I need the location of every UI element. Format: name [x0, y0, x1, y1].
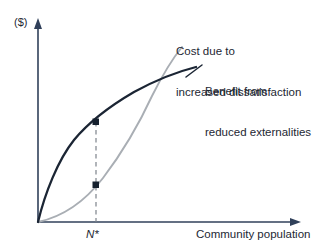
- nstar-tick-label: N*: [86, 228, 99, 242]
- benefit-annotation-line-1: Benefit from: [205, 85, 311, 99]
- benefit-at-nstar-marker: [93, 119, 100, 126]
- x-axis-label: Community population: [196, 228, 310, 242]
- x-axis: [38, 218, 301, 226]
- cost-curve: [38, 47, 182, 222]
- y-axis-label: ($): [14, 16, 27, 29]
- y-axis: [34, 18, 42, 222]
- cost-annotation-line-1: Cost due to: [176, 45, 301, 59]
- benefit-curve: [38, 67, 196, 222]
- benefit-curve-annotation: Benefit from reduced externalities: [205, 58, 311, 167]
- benefit-annotation-line-2: reduced externalities: [205, 126, 311, 140]
- cost-at-nstar-marker: [93, 182, 100, 189]
- chart-figure: ($) Community population N* Cost due to …: [0, 0, 322, 250]
